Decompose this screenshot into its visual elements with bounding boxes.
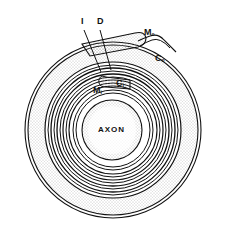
label-intraperiod: I bbox=[81, 17, 84, 26]
label-main: M bbox=[93, 85, 101, 95]
label-inner-mesaxon: Mi bbox=[93, 86, 102, 95]
myelin-diagram bbox=[0, 0, 227, 239]
label-main: M bbox=[144, 27, 152, 37]
label-inner-cytoplasm: Ci bbox=[116, 79, 124, 88]
label-sub: i bbox=[123, 82, 124, 88]
label-sub: i bbox=[101, 89, 102, 95]
label-sub: o bbox=[162, 57, 165, 63]
label-outer-mesaxon: Mo bbox=[144, 28, 155, 37]
label-sub: o bbox=[152, 31, 155, 37]
label-dense: D bbox=[97, 17, 104, 26]
label-axon: AXON bbox=[98, 126, 125, 134]
label-outer-cytoplasm: Co bbox=[155, 54, 165, 63]
